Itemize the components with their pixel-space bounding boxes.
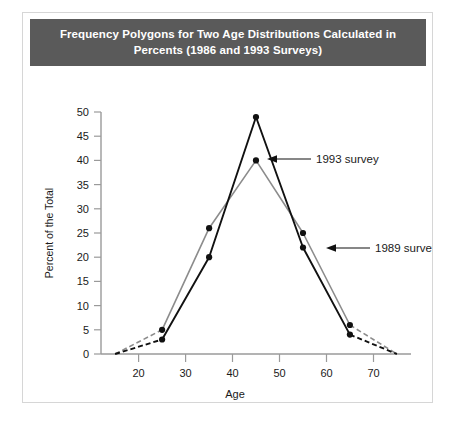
- chart-title-bar: Frequency Polygons for Two Age Distribut…: [30, 19, 426, 66]
- x-axis-ticks: [139, 354, 374, 362]
- x-tick-label: 20: [132, 367, 144, 379]
- y-tick-label: 35: [77, 179, 89, 191]
- y-axis-tick-labels: 0 5 10 15 20 25 30 35 40 45 50: [77, 106, 89, 360]
- y-tick-label: 30: [77, 203, 89, 215]
- x-axis-tick-labels: 20 30 40 50 60 70: [132, 367, 379, 379]
- annotation-label-1989-survey: 1989 survey: [375, 242, 432, 254]
- series-line-1989-survey: [162, 160, 350, 329]
- x-tick-label: 30: [179, 367, 191, 379]
- plot-area: 0 5 10 15 20 25 30 35 40 45 50 Percent o…: [23, 66, 432, 402]
- y-axis-ticks: [94, 112, 101, 354]
- chart-title-line-1: Frequency Polygons for Two Age Distribut…: [60, 28, 396, 40]
- x-axis-title-sub: (in years): [212, 401, 258, 402]
- series-line-1993-survey: [162, 117, 350, 340]
- annotation-arrow-head-1989: [326, 244, 336, 252]
- y-tick-label: 25: [77, 227, 89, 239]
- frequency-polygon-chart: 0 5 10 15 20 25 30 35 40 45 50 Percent o…: [23, 66, 432, 402]
- x-tick-label: 70: [367, 367, 379, 379]
- x-axis-title: Age: [225, 388, 245, 400]
- y-tick-label: 10: [77, 300, 89, 312]
- y-tick-label: 20: [77, 251, 89, 263]
- series-markers-1993-survey: [159, 114, 353, 343]
- annotation-label-1993-survey: 1993 survey: [316, 153, 379, 165]
- y-tick-label: 40: [77, 154, 89, 166]
- annotation-1993-survey: 1993 survey: [267, 153, 379, 165]
- chart-title: Frequency Polygons for Two Age Distribut…: [60, 27, 396, 58]
- series-markers-1989-survey: [159, 157, 353, 333]
- figure-container: Frequency Polygons for Two Age Distribut…: [22, 12, 433, 403]
- x-tick-label: 40: [226, 367, 238, 379]
- y-tick-label: 5: [83, 324, 89, 336]
- y-tick-label: 50: [77, 106, 89, 118]
- y-tick-label: 45: [77, 130, 89, 142]
- y-axis-title: Percent of the Total: [43, 188, 55, 278]
- annotation-1989-survey: 1989 survey: [326, 242, 432, 254]
- series-tail-right-1989-survey: [350, 325, 397, 354]
- series-tail-right-1993-survey: [350, 335, 397, 354]
- y-tick-label: 15: [77, 275, 89, 287]
- x-tick-label: 50: [273, 367, 285, 379]
- x-tick-label: 60: [320, 367, 332, 379]
- y-tick-label: 0: [83, 348, 89, 360]
- chart-title-line-2: Percents (1986 and 1993 Surveys): [134, 44, 323, 56]
